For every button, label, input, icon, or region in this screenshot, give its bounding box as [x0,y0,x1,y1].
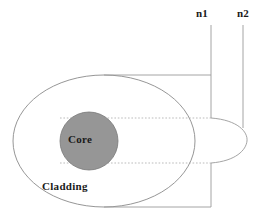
n2-label: n2 [237,8,249,19]
diagram-canvas [0,0,273,218]
core-label: Core [68,134,92,145]
n1-label: n1 [196,8,208,19]
cladding-label: Cladding [42,181,88,192]
fiber-index-profile-figure: n1 n2 Core Cladding [0,0,273,218]
profile-core-bump [211,118,247,163]
